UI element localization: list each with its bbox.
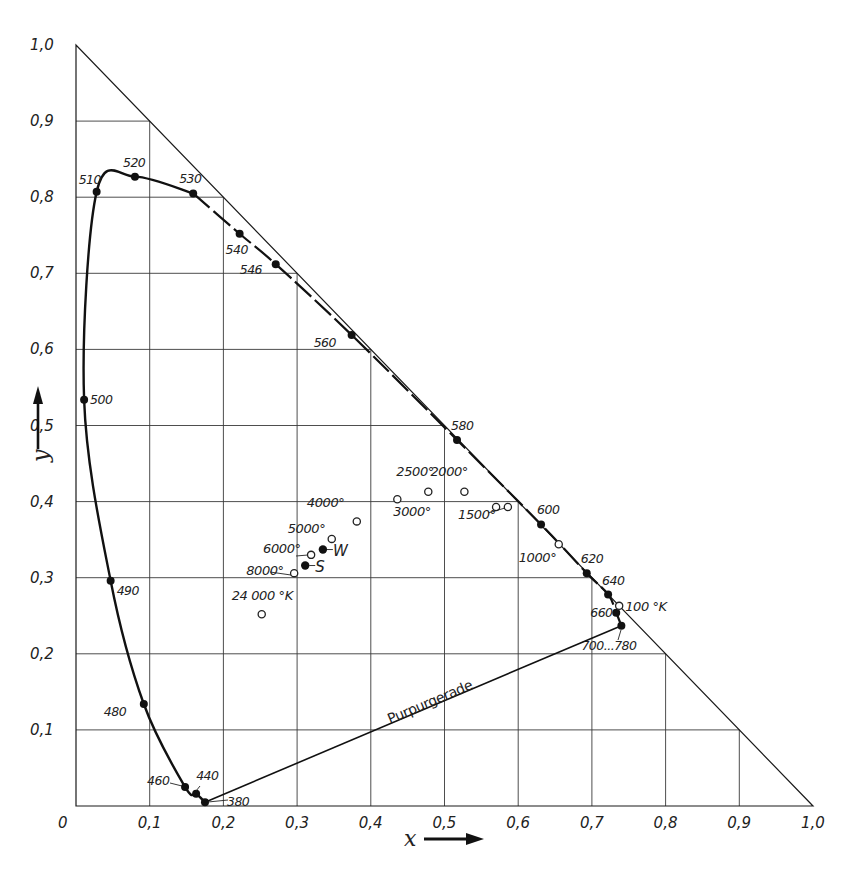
- y-tick-label: 0,9: [30, 112, 54, 130]
- leader-line: [170, 783, 182, 786]
- color-temperature-point: [504, 503, 511, 510]
- color-temperature-point: [616, 602, 623, 609]
- purple-line: Purpurgerade: [205, 626, 621, 803]
- color-temperature-point: [461, 488, 468, 495]
- y-tick-label: 1,0: [30, 36, 54, 54]
- wavelength-label: 560: [314, 335, 337, 350]
- color-temperature-label: 1500°: [458, 507, 496, 522]
- wavelength-point: [583, 569, 591, 577]
- wavelength-label: 640: [602, 573, 625, 588]
- y-tick-label: 0,8: [30, 188, 54, 206]
- y-tick-label: 0,6: [30, 340, 54, 358]
- wavelength-label: 510: [79, 172, 102, 187]
- x-tick-label: 0,4: [359, 814, 383, 832]
- leader-line: [196, 786, 200, 791]
- color-temperature-point: [394, 496, 401, 503]
- color-temperature-point: [353, 518, 360, 525]
- color-temperature-label: 4000°: [307, 495, 345, 510]
- color-temperature-label: 100 °K: [625, 599, 668, 614]
- cie-chromaticity-diagram: 0,10,20,30,40,50,60,70,80,91,000,10,20,3…: [0, 0, 861, 878]
- color-temperature-point: [425, 488, 432, 495]
- color-temperature-point: [291, 570, 298, 577]
- color-temperature-label: 6000°: [263, 541, 301, 556]
- wavelength-label: 490: [117, 583, 140, 598]
- y-tick-label: 0,4: [30, 493, 54, 511]
- wavelength-label: 540: [226, 242, 249, 257]
- wavelength-point: [236, 230, 244, 238]
- spectral-locus: 3804404604804905005105205305405465605806…: [79, 155, 637, 810]
- wavelength-label: 546: [240, 262, 263, 277]
- y-tick-label: 0,2: [30, 645, 54, 663]
- wavelength-label: 380: [227, 794, 250, 809]
- wavelength-point: [140, 700, 148, 708]
- x-tick-label: 0,1: [138, 814, 162, 832]
- color-temperature-label: 3000°: [393, 504, 431, 519]
- wavelength-point: [181, 783, 189, 791]
- color-temperature-label: 5000°: [288, 521, 326, 536]
- wavelength-label: 520: [123, 155, 146, 170]
- x-tick-label: 0,3: [285, 814, 309, 832]
- reference-point-s: [301, 561, 309, 569]
- wavelength-label: 530: [179, 171, 202, 186]
- x-axis-arrow-icon: [424, 833, 484, 845]
- wavelength-point: [604, 590, 612, 598]
- color-temperature-label: 8000°: [246, 563, 284, 578]
- x-tick-label: 0,5: [433, 814, 457, 832]
- wavelength-point: [272, 260, 280, 268]
- color-temperature-point: [258, 611, 265, 618]
- spectral-locus-curve-upper: [193, 193, 621, 625]
- reference-point-label: W: [333, 542, 349, 560]
- y-tick-label: 0,5: [30, 417, 54, 435]
- wavelength-label: 480: [104, 704, 127, 719]
- origin-label: 0: [58, 814, 68, 832]
- x-axis-label: x: [404, 826, 417, 851]
- color-temperature-label: 2000°: [430, 464, 468, 479]
- x-tick-label: 0,2: [211, 814, 235, 832]
- color-temperature-label: 2500°: [396, 464, 434, 479]
- wavelength-label: 500: [90, 392, 113, 407]
- wavelength-point: [131, 173, 139, 181]
- color-temperature-point: [555, 541, 562, 548]
- wavelength-point: [537, 520, 545, 528]
- x-tick-label: 0,7: [580, 814, 604, 832]
- wavelength-point: [80, 396, 88, 404]
- y-tick-label: 0,7: [30, 264, 54, 282]
- wavelength-label: 600: [537, 502, 560, 517]
- x-tick-label: 0,6: [506, 814, 530, 832]
- wavelength-label: 460: [147, 773, 170, 788]
- wavelength-point: [453, 436, 461, 444]
- x-tick-label: 0,8: [654, 814, 678, 832]
- y-tick-label: 0,3: [30, 569, 54, 587]
- wavelength-label: 620: [581, 551, 604, 566]
- purple-line-label: Purpurgerade: [385, 677, 475, 727]
- reference-point-w: [319, 545, 327, 553]
- reference-point-label: S: [315, 558, 325, 576]
- color-temperature-label: 24 000 °K: [232, 588, 295, 603]
- wavelength-label: 580: [451, 418, 474, 433]
- tick-labels: 0,10,20,30,40,50,60,70,80,91,000,10,20,3…: [30, 36, 825, 832]
- color-temperature-label: 1000°: [519, 550, 557, 565]
- reference-points: WS: [301, 542, 349, 576]
- wavelength-point: [107, 577, 115, 585]
- x-tick-label: 1,0: [801, 814, 825, 832]
- y-axis-label: y: [28, 449, 53, 463]
- wavelength-point: [93, 188, 101, 196]
- wavelength-point: [348, 331, 356, 339]
- wavelength-label: 440: [196, 768, 219, 783]
- y-tick-label: 0,1: [30, 721, 54, 739]
- wavelength-point: [189, 189, 197, 197]
- wavelength-label: 660: [590, 605, 613, 620]
- x-tick-label: 0,9: [727, 814, 751, 832]
- color-temperature-point: [308, 551, 315, 558]
